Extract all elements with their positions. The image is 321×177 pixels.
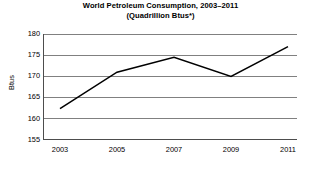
plot-canvas <box>43 34 297 140</box>
y-tick-label: 165 <box>18 93 40 101</box>
chart-subtitle: (Quadrillion Btus*) <box>0 11 321 21</box>
x-axis-tick-labels: 2003 2005 2007 2009 2011 <box>0 145 321 159</box>
y-tick-label: 170 <box>18 72 40 80</box>
x-tick-label: 2003 <box>40 145 80 154</box>
y-tick-label: 175 <box>18 51 40 59</box>
chart-title-block: World Petroleum Consumption, 2003–2011 (… <box>0 1 321 21</box>
line-chart-figure: World Petroleum Consumption, 2003–2011 (… <box>0 0 321 177</box>
chart-title: World Petroleum Consumption, 2003–2011 <box>0 1 321 11</box>
axis-lines <box>43 34 297 140</box>
y-tick-label: 155 <box>18 136 40 144</box>
y-tick-label: 160 <box>18 115 40 123</box>
x-tick-label: 2007 <box>154 145 194 154</box>
y-tick-label: 180 <box>18 30 40 38</box>
plot-area <box>43 34 297 140</box>
x-tick-label: 2009 <box>211 145 251 154</box>
x-tick-label: 2011 <box>268 145 308 154</box>
x-tick-label: 2005 <box>97 145 137 154</box>
gridlines <box>43 35 297 119</box>
